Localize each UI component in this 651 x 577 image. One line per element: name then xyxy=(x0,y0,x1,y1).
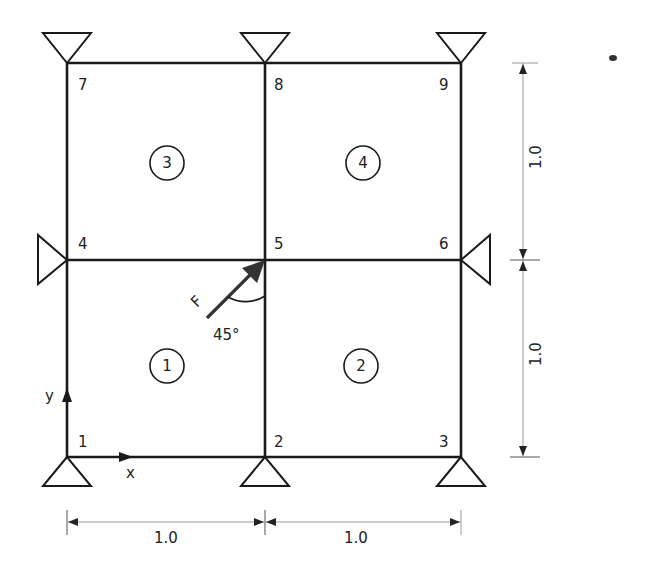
y-axis-arrow-icon xyxy=(62,388,72,402)
node-label-2: 2 xyxy=(274,433,284,451)
element-label-3: 3 xyxy=(162,154,172,172)
x-axis-arrow-icon xyxy=(119,452,133,462)
dimension-h-1: 1.0 xyxy=(154,529,178,547)
angle-label: 45° xyxy=(213,326,240,344)
y-axis-label: y xyxy=(45,387,54,405)
node-label-9: 9 xyxy=(439,76,449,94)
support-node-9-icon xyxy=(437,33,485,63)
horizontal-dimensions: 1.0 1.0 xyxy=(67,510,461,547)
angle-arc xyxy=(228,296,265,302)
element-label-4: 4 xyxy=(358,154,368,172)
vertical-dimensions: 1.0 1.0 xyxy=(510,63,545,457)
dimension-v-top: 1.0 xyxy=(527,145,545,169)
x-axis-label: x xyxy=(126,464,135,482)
support-node-6-icon xyxy=(461,235,490,284)
node-label-6: 6 xyxy=(439,235,449,253)
fe-mesh-diagram: 1 2 3 4 5 6 7 8 9 1 2 3 4 F 45° y x xyxy=(0,0,651,577)
element-label-1: 1 xyxy=(162,357,172,375)
force-label: F xyxy=(187,292,206,311)
mesh-grid xyxy=(67,63,461,457)
node-label-4: 4 xyxy=(78,235,88,253)
support-node-2-icon xyxy=(241,457,289,486)
support-node-4-icon xyxy=(38,235,67,284)
node-label-7: 7 xyxy=(78,76,88,94)
support-node-7-icon xyxy=(43,33,91,63)
dimension-h-2: 1.0 xyxy=(344,529,368,547)
support-node-1-icon xyxy=(43,457,91,486)
force-arrow: F 45° xyxy=(187,260,265,344)
node-label-3: 3 xyxy=(439,433,449,451)
support-node-3-icon xyxy=(437,457,485,486)
node-label-1: 1 xyxy=(78,433,88,451)
dimension-v-bottom: 1.0 xyxy=(527,342,545,366)
stray-dot xyxy=(609,55,617,61)
element-label-2: 2 xyxy=(356,357,366,375)
support-node-8-icon xyxy=(241,33,289,63)
node-label-8: 8 xyxy=(274,76,284,94)
node-label-5: 5 xyxy=(274,235,284,253)
